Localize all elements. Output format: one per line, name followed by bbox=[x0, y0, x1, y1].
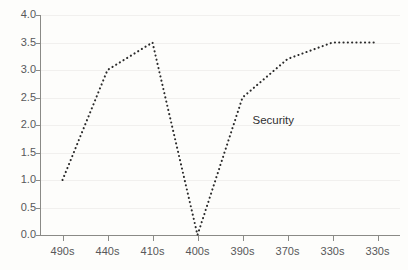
series-annotation-security: Security bbox=[253, 114, 295, 126]
chart-container: 0.00.51.01.52.02.53.03.54.0 490s440s410s… bbox=[0, 0, 408, 270]
series-line-security bbox=[0, 0, 408, 270]
